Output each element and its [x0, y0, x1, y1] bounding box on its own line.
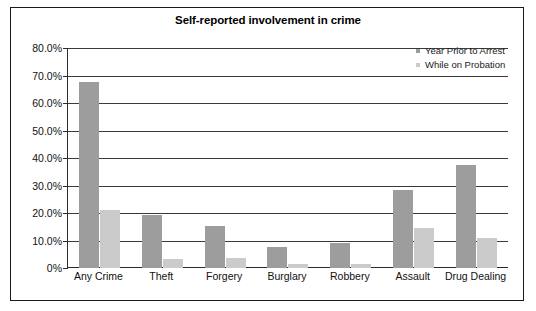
bar-group — [445, 48, 508, 268]
y-tick-label: 20.0% — [32, 207, 62, 219]
bar[interactable] — [351, 264, 371, 268]
bar[interactable] — [288, 264, 308, 268]
y-tick-label: 70.0% — [32, 70, 62, 82]
legend-label: Year Prior to Arrest — [425, 45, 505, 56]
bar[interactable] — [79, 82, 99, 268]
y-tick-label: 10.0% — [32, 235, 62, 247]
legend-label: While on Probation — [425, 59, 505, 70]
bar[interactable] — [267, 247, 287, 268]
bar[interactable] — [456, 165, 476, 268]
bar[interactable] — [414, 228, 434, 268]
y-tick-label: 40.0% — [32, 152, 62, 164]
x-axis-labels: Any CrimeTheftForgeryBurglaryRobberyAssa… — [67, 270, 508, 290]
x-tick-label: Theft — [149, 270, 173, 282]
bar[interactable] — [163, 259, 183, 268]
bar[interactable] — [100, 210, 120, 268]
bar-group — [131, 48, 194, 268]
y-tick-label: 80.0% — [32, 42, 62, 54]
x-tick-label: Forgery — [206, 270, 242, 282]
bar-group — [194, 48, 257, 268]
page-title: Self-reported involvement in crime — [0, 14, 536, 26]
x-tick-label: Burglary — [267, 270, 306, 282]
y-tick-label: 0% — [47, 262, 62, 274]
y-tick-label: 30.0% — [32, 180, 62, 192]
bar[interactable] — [205, 226, 225, 268]
bar-group — [68, 48, 131, 268]
legend-swatch-icon — [416, 63, 420, 67]
plot-area — [67, 48, 508, 268]
y-axis-labels: 80.0%70.0%60.0%50.0%40.0%30.0%20.0%10.0%… — [0, 48, 62, 268]
x-tick-label: Assault — [395, 270, 429, 282]
y-tick-label: 50.0% — [32, 125, 62, 137]
bar-group — [319, 48, 382, 268]
y-tick-label: 60.0% — [32, 97, 62, 109]
bar[interactable] — [393, 190, 413, 268]
legend-swatch-icon — [416, 49, 420, 53]
legend-item[interactable]: Year Prior to Arrest — [416, 44, 526, 57]
legend-item[interactable]: While on Probation — [416, 58, 526, 71]
bar[interactable] — [226, 258, 246, 268]
bar[interactable] — [330, 243, 350, 268]
bar-group — [257, 48, 320, 268]
bar[interactable] — [142, 215, 162, 268]
x-tick-label: Robbery — [330, 270, 370, 282]
chart-legend: Year Prior to ArrestWhile on Probation — [416, 44, 526, 72]
x-tick-label: Any Crime — [74, 270, 123, 282]
x-tick-label: Drug Dealing — [445, 270, 506, 282]
chart-figure: Self-reported involvement in crime 80.0%… — [0, 0, 536, 311]
bar[interactable] — [477, 238, 497, 268]
bar-group — [382, 48, 445, 268]
y-tick-mark — [63, 268, 68, 269]
